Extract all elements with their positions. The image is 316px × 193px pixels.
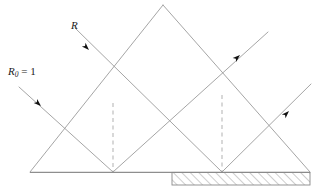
label-R0: R0 = 1 (8, 66, 36, 77)
ray-lines (19, 5, 311, 172)
line-left-ascending (30, 5, 163, 172)
line-incident-R0 (19, 87, 113, 172)
line-reflected-lower (222, 84, 311, 172)
dashed-normals (113, 95, 222, 171)
substrate-block (172, 172, 310, 185)
line-right-descending (163, 5, 310, 172)
label-R: R (71, 20, 78, 31)
label-R-text: R (71, 19, 78, 31)
arrowhead-out-lower (282, 109, 291, 118)
arrowhead-R (82, 43, 91, 52)
arrowhead-R0 (34, 99, 43, 108)
ray-diagram-svg (0, 0, 316, 193)
figure-container: R R0 = 1 (0, 0, 316, 193)
label-R0-subscript: 0 (15, 70, 19, 79)
line-incident-R (75, 28, 222, 172)
label-R0-text: R (8, 65, 15, 77)
line-reflected-upper (113, 32, 268, 172)
label-R0-equals: = 1 (18, 65, 35, 77)
